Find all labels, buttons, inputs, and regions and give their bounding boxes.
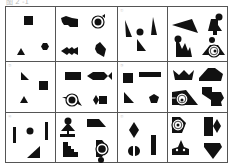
shapes-icon	[56, 113, 117, 163]
cell-r3c2	[56, 113, 117, 163]
cell-r2c2	[56, 62, 117, 112]
shapes-icon	[56, 62, 117, 112]
cell-r1c2	[56, 7, 117, 61]
cell-r3c4	[168, 113, 229, 163]
cell-r2c1: ②	[6, 62, 55, 112]
shapes-icon	[118, 113, 167, 163]
cell-r3c3: ⑤	[118, 113, 167, 163]
shapes-icon	[118, 62, 167, 112]
puzzle-grid: ① ②	[5, 6, 228, 163]
cell-r3c1: ④	[6, 113, 55, 163]
shapes-icon	[6, 62, 55, 112]
shapes-icon	[168, 62, 229, 112]
cell-r1c1	[6, 7, 55, 61]
shapes-icon	[168, 113, 229, 163]
cell-r2c4	[168, 62, 229, 112]
shapes-icon	[118, 7, 167, 61]
shapes-icon	[56, 7, 117, 61]
shapes-icon	[168, 7, 229, 61]
cell-r1c3: ①	[118, 7, 167, 61]
cell-r2c3: ③	[118, 62, 167, 112]
shapes-icon	[6, 7, 55, 61]
cell-r1c4	[168, 7, 229, 61]
shapes-icon	[6, 113, 55, 163]
